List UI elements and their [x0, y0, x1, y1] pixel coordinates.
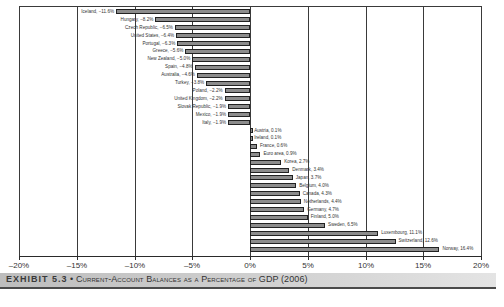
caption-separator: • [68, 274, 76, 284]
bar-label: Canada, 4.3% [303, 191, 332, 196]
gridline [308, 6, 309, 256]
bar-czech-republic [175, 25, 250, 30]
bar-label: United Kingdom, −2.2% [174, 96, 222, 101]
gridline [481, 6, 482, 256]
gridline [19, 6, 20, 256]
bar-italy [228, 120, 250, 125]
x-tick-label: –20% [9, 261, 29, 270]
bar-label: Luxembourg, 11.1% [381, 230, 422, 235]
bar-label: Poland, −2.2% [193, 88, 223, 93]
bar-label: Italy, −1.9% [202, 120, 226, 125]
x-tick [308, 256, 309, 260]
x-tick-label: –10% [125, 261, 145, 270]
bar-euro-area [250, 152, 260, 157]
bar-sweden [250, 223, 325, 228]
bar-label: Turkey, −3.8% [175, 80, 204, 85]
bar-france [250, 144, 257, 149]
x-tick-label: 20% [473, 261, 489, 270]
bar-label: Switzerland, 12.6% [399, 238, 438, 243]
x-tick-label: –5% [184, 261, 200, 270]
x-tick [192, 256, 193, 260]
bar-label: Czech Republic, −6.5% [125, 25, 173, 30]
x-tick-label: 0% [244, 261, 256, 270]
caption-text: EXHIBIT 5.3 • Current-Account Balances a… [6, 274, 308, 284]
bar-slovak-republic [228, 104, 250, 109]
bar-label: Ireland, 0.1% [254, 135, 281, 140]
bar-label: France, 0.6% [260, 143, 287, 148]
bar-label: Austria, 0.1% [254, 128, 281, 133]
bar-mexico [228, 112, 250, 117]
bar-label: Australia, −4.6% [161, 72, 195, 77]
bar-poland [225, 88, 250, 93]
bar-label: Finland, 5.0% [311, 214, 339, 219]
bar-label: Iceland, −11.6% [81, 9, 114, 14]
x-tick [481, 256, 482, 260]
gridline [423, 6, 424, 256]
bar-label: Slovak Republic, −1.9% [177, 104, 226, 109]
bar-label: Spain, −4.8% [165, 64, 192, 69]
bar-turkey [206, 81, 250, 86]
bar-label: Japan, 3.7% [296, 175, 322, 180]
bar-japan [250, 175, 293, 180]
caption-prefix: EXHIBIT 5.3 [6, 274, 68, 284]
bar-spain [195, 65, 250, 70]
bar-label: Netherlands, 4.4% [304, 199, 342, 204]
bar-canada [250, 191, 300, 196]
bar-netherlands [250, 199, 301, 204]
bar-label: Germany, 4.7% [307, 207, 339, 212]
exhibit-caption: EXHIBIT 5.3 • Current-Account Balances a… [0, 273, 496, 289]
bar-korea [250, 160, 281, 165]
bar-ireland [250, 136, 253, 141]
bar-label: Belgium, 4.0% [299, 183, 329, 188]
x-tick [19, 256, 20, 260]
gridline [135, 6, 136, 256]
bar-chart: –20%–15%–10%–5%0%5%10%15%20%Iceland, −11… [0, 0, 504, 270]
bar-label: Norway, 16.4% [442, 246, 473, 251]
bar-germany [250, 207, 304, 212]
bar-denmark [250, 168, 289, 173]
gridline [366, 6, 367, 256]
gridline [77, 6, 78, 256]
x-tick-label: –15% [67, 261, 87, 270]
bar-portugal [177, 41, 250, 46]
bar-label: Portugal, −6.3% [142, 41, 175, 46]
x-tick [135, 256, 136, 260]
bar-finland [250, 215, 308, 220]
bar-label: Denmark, 3.4% [292, 167, 324, 172]
bar-label: Greece, −5.6% [153, 48, 184, 53]
x-tick [423, 256, 424, 260]
bar-united-kingdom [225, 96, 250, 101]
x-tick [77, 256, 78, 260]
bar-hungary [155, 17, 250, 22]
bar-austria [250, 128, 253, 133]
bar-greece [185, 49, 250, 54]
bar-switzerland [250, 239, 396, 244]
bar-label: Euro area, 0.9% [263, 151, 296, 156]
x-tick [250, 256, 251, 260]
bar-new-zealand [192, 57, 250, 62]
bar-luxembourg [250, 231, 378, 236]
bar-label: Hungary, −8.2% [121, 17, 154, 22]
bar-australia [197, 73, 250, 78]
bar-belgium [250, 183, 296, 188]
bar-iceland [116, 9, 250, 14]
bar-label: Mexico, −1.9% [196, 112, 226, 117]
x-tick-label: 15% [415, 261, 431, 270]
bar-norway [250, 247, 439, 252]
bar-united-states [176, 33, 250, 38]
bar-label: United States, −6.4% [131, 33, 174, 38]
x-tick-label: 10% [358, 261, 374, 270]
x-tick-label: 5% [302, 261, 314, 270]
caption-title: Current-Account Balances as a Percentage… [76, 274, 308, 284]
bar-label: New Zealand, −5.0% [147, 56, 190, 61]
bar-label: Sweden, 6.5% [328, 222, 358, 227]
bar-label: Korea, 2.7% [284, 159, 309, 164]
x-tick [366, 256, 367, 260]
